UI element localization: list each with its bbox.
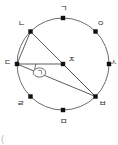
point-label-upper-left: ㄴ [18, 19, 25, 28]
segment-digeut-to-nieun [17, 32, 31, 65]
geometry-canvas: ㄱ ㄱ ㄴ ㄷ ㄹ ㅁ ㅂ ㅅ ㅇ ㅈ ( [0, 0, 118, 145]
point-bottom [61, 108, 65, 112]
point-label-bottom: ㅁ [60, 117, 67, 126]
point-center [61, 62, 65, 66]
point-lower-right [93, 94, 97, 98]
segment-digeut-to-bieup [17, 64, 96, 97]
angle-marker-label: ㄱ [37, 69, 43, 76]
point-label-lower-right: ㅂ [99, 99, 106, 108]
point-upper-left [28, 29, 32, 33]
point-label-left: ㄷ [4, 58, 11, 67]
point-top [61, 16, 65, 20]
point-upper-right [93, 29, 97, 33]
segment-jieut-to-bieup [63, 64, 96, 97]
point-label-upper-right: ㅇ [97, 19, 104, 28]
point-lower-left [28, 94, 32, 98]
point-label-center: ㅈ [68, 55, 75, 64]
point-label-top: ㄱ [60, 4, 67, 13]
point-label-right: ㅅ [110, 58, 117, 67]
point-label-lower-left: ㄹ [17, 99, 24, 108]
corner-artifact: ( [1, 134, 4, 144]
geometry-figure: ㄱ ㄱ ㄴ ㄷ ㄹ ㅁ ㅂ ㅅ ㅇ ㅈ ( [0, 0, 118, 145]
point-left [15, 62, 19, 66]
